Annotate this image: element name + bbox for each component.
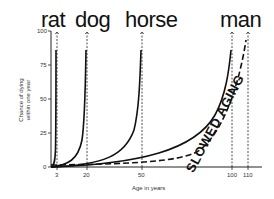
dog-label: dog [75, 9, 110, 31]
man-label: man [220, 9, 261, 31]
rat-curve [51, 50, 56, 167]
horse-label: horse [125, 9, 178, 31]
x-tick-110: 110 [243, 172, 253, 178]
y-tick-75: 75 [40, 62, 47, 68]
y-tick-50: 50 [40, 96, 47, 102]
y-axis-label: Chance of dying within one year [18, 70, 32, 130]
y-tick-0: 0 [43, 164, 46, 170]
y-tick-100: 100 [37, 28, 47, 34]
x-tick-3: 3 [55, 172, 58, 178]
x-tick-20: 20 [83, 172, 90, 178]
x-tick-100: 100 [227, 172, 237, 178]
y-tick-25: 25 [40, 130, 47, 136]
x-tick-50: 50 [138, 172, 145, 178]
x-axis-label: Age in years [132, 185, 165, 191]
horse-curve [51, 50, 141, 167]
